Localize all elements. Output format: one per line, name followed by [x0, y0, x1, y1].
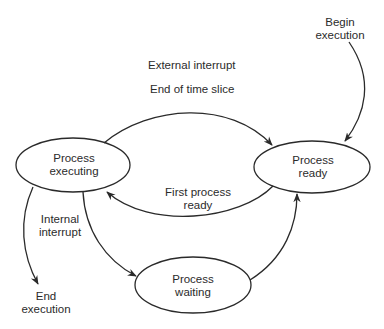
label-end-execution: End execution — [21, 290, 70, 316]
transition-executing-to-waiting-arrow — [83, 192, 136, 276]
label-begin-execution-line2: execution — [315, 29, 364, 42]
label-internal-interrupt: Internal interrupt — [39, 213, 81, 239]
label-end-execution-line1: End — [21, 290, 70, 303]
label-internal-interrupt-line2: interrupt — [39, 226, 81, 239]
transition-waiting-to-ready-arrow — [250, 194, 297, 280]
state-ready-line2: ready — [292, 167, 334, 180]
label-end-execution-line2: execution — [21, 303, 70, 316]
label-begin-execution: Begin execution — [315, 16, 364, 42]
label-begin-execution-line1: Begin — [315, 16, 364, 29]
state-executing-line2: executing — [49, 165, 98, 178]
state-waiting: Process waiting — [172, 273, 214, 299]
state-ready: Process ready — [292, 154, 334, 180]
transition-executing-to-ready-arrow — [104, 113, 272, 145]
label-external-interrupt: External interrupt — [148, 59, 236, 72]
state-waiting-line1: Process — [172, 273, 214, 286]
transition-executing-to-end-arrow — [24, 187, 38, 284]
transition-begin-to-ready-arrow — [345, 42, 365, 141]
state-ready-line1: Process — [292, 154, 334, 167]
label-first-process-ready-line1: First process — [165, 186, 231, 199]
label-first-process-ready-line2: ready — [165, 199, 231, 212]
label-first-process-ready: First process ready — [165, 186, 231, 212]
state-executing: Process executing — [49, 152, 98, 178]
label-internal-interrupt-line1: Internal — [39, 213, 81, 226]
state-executing-line1: Process — [49, 152, 98, 165]
label-end-of-time-slice: End of time slice — [150, 83, 234, 96]
state-waiting-line2: waiting — [172, 286, 214, 299]
